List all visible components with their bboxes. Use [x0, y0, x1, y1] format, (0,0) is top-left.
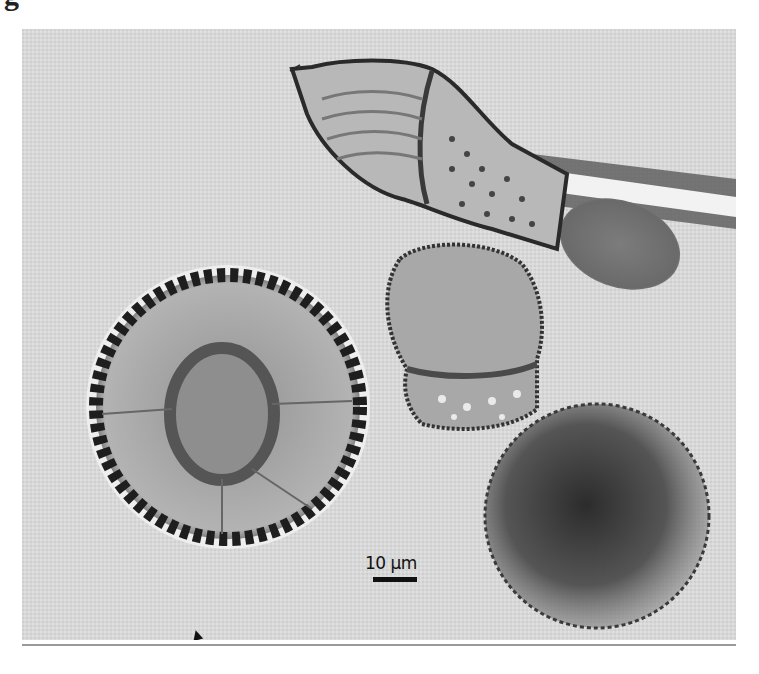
spiny-round-cyst [86, 265, 370, 549]
dark-round-cyst [485, 404, 709, 628]
bottom-rule [22, 644, 736, 646]
scale-bar-label: 10 µm [365, 553, 417, 573]
truncated-round-cyst [387, 245, 542, 429]
micrograph-drawing [22, 29, 736, 640]
figure-label: g [4, 0, 19, 12]
micrograph-image: 10 µm [22, 29, 736, 640]
scale-bar [373, 577, 417, 582]
